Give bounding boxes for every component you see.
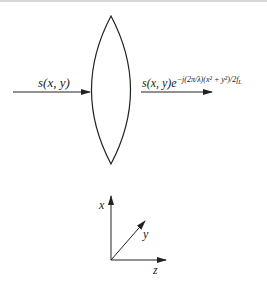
output-signal-label: s(x, y)e−j(2π/λ)(x² + y²)/2fL (142, 75, 242, 90)
output-exponent: −j(2π/λ)(x² + y²)/2f (177, 75, 240, 84)
lens-shape (92, 16, 131, 164)
input-signal-label: s(x, y) (38, 75, 70, 90)
output-base: s(x, y)e (142, 76, 177, 90)
output-exponent-subscript: L (237, 79, 242, 85)
x-axis-label: x (98, 198, 105, 212)
z-axis-label: z (152, 263, 158, 277)
lens-diagram: s(x, y) s(x, y)e−j(2π/λ)(x² + y²)/2fL x … (0, 0, 267, 287)
coordinate-axes (111, 196, 166, 260)
y-axis-label: y (142, 227, 149, 241)
